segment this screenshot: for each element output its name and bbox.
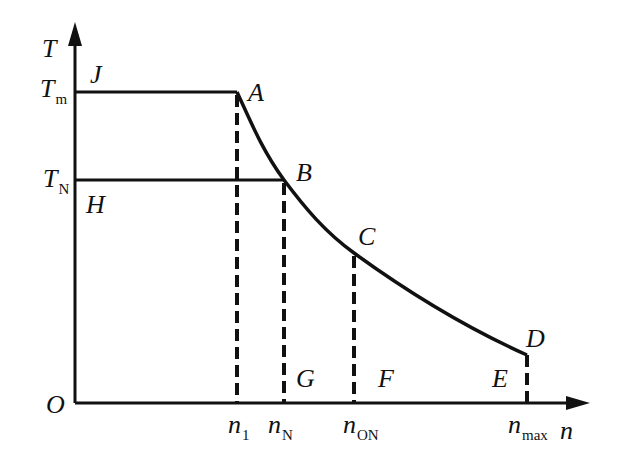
point-label-g: G — [296, 366, 315, 392]
point-label-a: A — [248, 80, 264, 106]
x-tick-n1: n1 — [228, 412, 250, 438]
x-axis-label: n — [560, 418, 573, 444]
x-tick-nmax: nmax — [508, 412, 548, 438]
origin-label: O — [46, 392, 65, 418]
point-label-h: H — [86, 192, 105, 218]
y-axis-arrow-icon — [68, 22, 82, 46]
y-axis-label: T — [42, 36, 56, 62]
x-tick-nN: nN — [268, 412, 293, 438]
point-label-d: D — [526, 326, 545, 352]
y-tick-tm: Tm — [40, 76, 67, 102]
point-label-j: J — [90, 62, 102, 88]
x-tick-nON: nON — [343, 412, 379, 438]
x-axis-arrow-icon — [566, 396, 590, 410]
y-tick-tn: TN — [43, 166, 69, 192]
point-label-e: E — [492, 366, 508, 392]
point-label-c: C — [358, 224, 375, 250]
point-label-b: B — [296, 160, 312, 186]
characteristic-curve — [237, 92, 527, 355]
point-label-f: F — [378, 366, 394, 392]
